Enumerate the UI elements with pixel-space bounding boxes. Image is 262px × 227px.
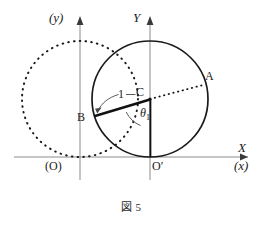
radius-leader-arrowhead [95, 108, 102, 114]
y-axis-label: (y) [49, 11, 63, 24]
point-B-label: B [77, 111, 85, 123]
Y-axis-label: Y [133, 11, 140, 24]
axes-group [14, 16, 248, 180]
origin-O-prime-label: O′ [152, 160, 163, 172]
point-C-label: C [136, 86, 144, 98]
point-A-label: A [205, 70, 214, 82]
figure-5-container: (y) Y X (x) (O) O′ A B C 1 θ1 図 5 [0, 0, 262, 227]
angle-theta-subscript: 1 [146, 113, 150, 122]
figure-caption: 図 5 [0, 198, 262, 214]
radius-length-label: 1 [118, 88, 124, 100]
radius-leader-arc [98, 95, 119, 112]
Y-axis-arrowhead [147, 16, 154, 25]
origin-O-label: (O) [45, 160, 62, 172]
angle-theta1-label: θ1 [140, 107, 150, 122]
X-axis-label: X [238, 141, 246, 154]
segment-C-to-A-dotted [150, 85, 203, 99]
y-axis-arrowhead [77, 16, 84, 25]
angle-arc-theta1 [126, 112, 140, 126]
x-axis-label: (x) [234, 159, 248, 172]
point-C-dot [149, 98, 152, 101]
figure-drawing [0, 0, 262, 227]
